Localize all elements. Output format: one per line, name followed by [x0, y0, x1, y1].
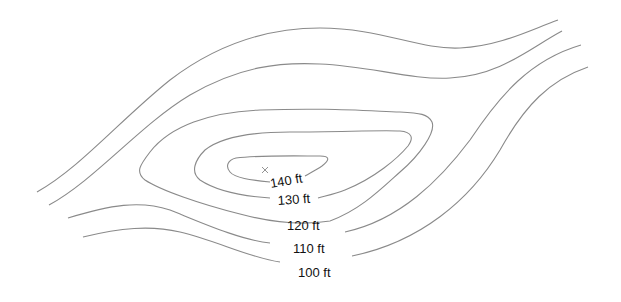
peak-marker-icon: [262, 167, 268, 173]
contour-line-100: [83, 67, 588, 262]
label-130: 130 ft: [277, 191, 311, 208]
label-100: 100 ft: [298, 265, 331, 280]
contour-map: 140 ft 130 ft 120 ft 110 ft 100 ft: [0, 0, 621, 302]
label-120: 120 ft: [287, 218, 320, 233]
label-110: 110 ft: [293, 241, 325, 256]
contour-line-110: [68, 45, 581, 243]
label-140: 140 ft: [269, 170, 304, 190]
contour-line-130: [195, 131, 412, 198]
contour-line-100-upper: [37, 20, 558, 192]
